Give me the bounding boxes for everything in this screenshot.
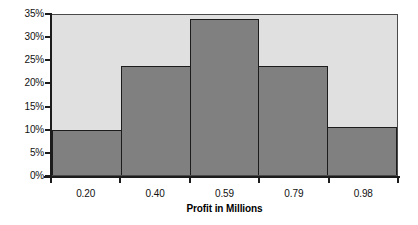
x-axis-tick-label: 0.20 — [56, 188, 116, 199]
y-axis-tick-label: 15% — [25, 102, 44, 112]
y-axis-tick — [45, 129, 52, 131]
plot-area — [51, 14, 398, 176]
y-axis-tick-label: 20% — [25, 78, 44, 88]
x-axis-tick — [189, 176, 191, 183]
y-axis-tick-label: 30% — [25, 32, 44, 42]
bar-bin-5 — [327, 127, 397, 175]
bar-bin-4 — [258, 66, 328, 175]
x-axis-tick — [328, 176, 330, 183]
x-axis-tick-label: 0.59 — [195, 188, 255, 199]
x-axis-tick-label: 0.40 — [125, 188, 185, 199]
x-axis-tick-label: 0.79 — [264, 188, 324, 199]
y-axis-tick — [45, 106, 52, 108]
x-axis-tick — [258, 176, 260, 183]
bar-bin-1 — [52, 130, 122, 175]
y-axis-tick — [45, 13, 52, 15]
y-axis-tick-label: 35% — [25, 9, 44, 19]
y-axis-tick-label: 10% — [25, 125, 44, 135]
x-axis-tick — [397, 176, 399, 183]
histogram-chart: 0%5%10%15%20%25%30%35% 0.200.400.590.790… — [0, 0, 418, 225]
x-axis-line — [44, 176, 400, 178]
y-axis-tick-label: 5% — [30, 148, 44, 158]
x-axis-tick — [50, 176, 52, 183]
bar-series — [52, 15, 397, 175]
y-axis-tick — [45, 82, 52, 84]
bar-bin-2 — [121, 66, 191, 175]
y-axis-tick — [45, 59, 52, 61]
y-axis-tick — [45, 36, 52, 38]
bar-bin-3 — [190, 19, 260, 175]
y-axis-tick — [45, 152, 52, 154]
y-axis-tick-label: 25% — [25, 55, 44, 65]
y-axis-tick-label: 0% — [30, 171, 44, 181]
x-axis-title: Profit in Millions — [51, 203, 398, 214]
x-axis-tick — [119, 176, 121, 183]
x-axis-tick-label: 0.98 — [333, 188, 393, 199]
